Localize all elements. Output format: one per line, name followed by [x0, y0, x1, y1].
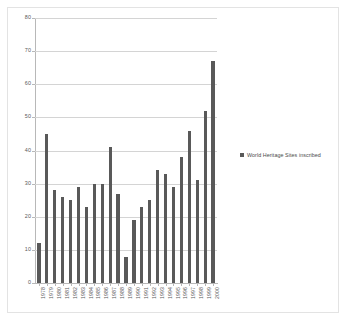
x-axis-tick-label: 1994 [168, 287, 173, 299]
x-axis-tick-mark [110, 284, 111, 286]
bar [124, 257, 127, 284]
x-axis-tick-mark [173, 284, 174, 286]
x-axis-tick-label: 1986 [104, 287, 109, 299]
bar [211, 61, 214, 283]
x-axis-tick-label: 1990 [136, 287, 141, 299]
y-axis-tick-label: 80 [25, 15, 31, 20]
y-axis-tick-mark [32, 184, 35, 185]
bar [180, 157, 183, 283]
bar-chart-figure: 01020304050607080 1978197919801981198219… [0, 0, 347, 321]
y-axis-tick-label: 50 [25, 115, 31, 120]
x-axis-tick-label: 1984 [89, 287, 94, 299]
x-axis-tick-mark [86, 284, 87, 286]
x-axis-tick-mark [142, 284, 143, 286]
y-axis-tick-mark [32, 151, 35, 152]
x-axis-tick-mark [166, 284, 167, 286]
x-axis-tick-mark [189, 284, 190, 286]
y-axis-tick-mark [32, 84, 35, 85]
x-axis-tick-mark [71, 284, 72, 286]
x-axis-tick-mark [79, 284, 80, 286]
x-axis-tick-label: 1999 [207, 287, 212, 299]
bar [148, 200, 151, 283]
x-axis-tick-label: 1978 [41, 287, 46, 299]
y-axis-tick-label: 70 [25, 48, 31, 53]
x-axis-tick-mark [63, 284, 64, 286]
bar [69, 200, 72, 283]
gridline [35, 84, 217, 85]
x-axis-tick-label: 1991 [144, 287, 149, 299]
y-axis-tick-label: 30 [25, 181, 31, 186]
x-axis-tick-labels: 1978197919801981198219831984198519861987… [35, 287, 218, 317]
bar [61, 197, 64, 283]
legend: World Heritage Sites inscribed [240, 152, 321, 158]
bar [85, 207, 88, 283]
bar [188, 131, 191, 283]
legend-label: World Heritage Sites inscribed [247, 152, 321, 158]
y-axis-tick-label: 10 [25, 247, 31, 252]
x-axis-tick-label: 1981 [65, 287, 70, 299]
plot-area [35, 18, 217, 283]
x-axis-tick-mark [213, 284, 214, 286]
bar [116, 194, 119, 283]
y-axis-tick-mark [32, 250, 35, 251]
bar [45, 134, 48, 283]
y-axis-tick-label: 0 [28, 280, 31, 285]
x-axis-tick-label: 1980 [57, 287, 62, 299]
x-axis-tick-mark [39, 284, 40, 286]
bar [101, 184, 104, 283]
y-axis-tick-mark [32, 51, 35, 52]
y-axis-tick-mark [32, 117, 35, 118]
x-axis-tick-label: 1982 [73, 287, 78, 299]
bar [77, 187, 80, 283]
bar [140, 207, 143, 283]
x-axis-tick-mark [47, 284, 48, 286]
y-axis-tick-label: 40 [25, 148, 31, 153]
bar [93, 184, 96, 283]
bar [196, 180, 199, 283]
bar [156, 170, 159, 283]
gridline [35, 117, 217, 118]
x-axis-tick-mark [126, 284, 127, 286]
x-axis-tick-label: 1998 [199, 287, 204, 299]
y-axis-tick-label: 20 [25, 214, 31, 219]
bar [172, 187, 175, 283]
x-axis-tick-mark [205, 284, 206, 286]
x-axis-tick-label: 1988 [120, 287, 125, 299]
bar [109, 147, 112, 283]
x-axis-tick-label: 1979 [49, 287, 54, 299]
gridline [35, 18, 217, 19]
x-axis-tick-mark [150, 284, 151, 286]
bar [37, 243, 40, 283]
x-axis-tick-label: 1996 [183, 287, 188, 299]
bar [132, 220, 135, 283]
x-axis-tick-mark [181, 284, 182, 286]
y-axis-tick-mark [32, 18, 35, 19]
x-axis-tick-mark [197, 284, 198, 286]
gridline [35, 51, 217, 52]
x-axis-tick-label: 1993 [160, 287, 165, 299]
x-axis-tick-label: 1992 [152, 287, 157, 299]
x-axis-tick-label: 1989 [128, 287, 133, 299]
x-axis-tick-label: 1995 [176, 287, 181, 299]
y-axis-tick-mark [32, 217, 35, 218]
bar [53, 190, 56, 283]
x-axis-tick-mark [102, 284, 103, 286]
x-axis-tick-mark [134, 284, 135, 286]
x-axis-tick-label: 1985 [96, 287, 101, 299]
legend-swatch-icon [240, 153, 244, 157]
bar [164, 174, 167, 283]
x-axis-tick-label: 1983 [81, 287, 86, 299]
y-axis-tick-label: 60 [25, 82, 31, 87]
x-axis-tick-mark [55, 284, 56, 286]
x-axis-tick-label: 2000 [215, 287, 220, 299]
y-axis-tick-mark [32, 283, 35, 284]
x-axis-tick-mark [158, 284, 159, 286]
bar [204, 111, 207, 283]
y-axis-tick-labels: 01020304050607080 [10, 18, 31, 283]
x-axis-tick-label: 1987 [112, 287, 117, 299]
x-axis-tick-mark [94, 284, 95, 286]
x-axis-tick-label: 1997 [191, 287, 196, 299]
x-axis-tick-mark [118, 284, 119, 286]
